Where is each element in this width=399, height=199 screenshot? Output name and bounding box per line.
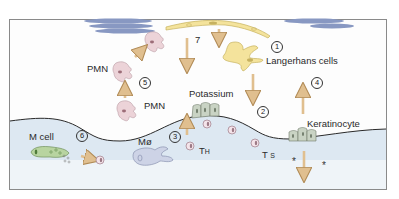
immune-response-diagram: PMN PMN Potassium Langerhans cells Kerat… bbox=[0, 0, 399, 199]
pmn-top-label: PMN bbox=[87, 64, 108, 74]
th-sub: H bbox=[205, 148, 210, 155]
keratinocyte-label: Keratinocyte bbox=[307, 119, 360, 129]
step-1-marker: 1 bbox=[271, 41, 283, 53]
step-5-marker: 5 bbox=[139, 77, 151, 89]
langerhans-label: Langerhans cells bbox=[266, 56, 338, 66]
pmn-mid-label: PMN bbox=[144, 101, 165, 111]
step-3-marker: 3 bbox=[169, 131, 181, 143]
m-cell-label: M cell bbox=[29, 132, 54, 142]
asterisk-left: * bbox=[292, 157, 296, 167]
asterisk-right: * bbox=[322, 161, 326, 171]
step-7-label: 7 bbox=[195, 35, 200, 45]
potassium-cell-cluster-icon bbox=[192, 103, 219, 119]
potassium-label: Potassium bbox=[189, 89, 233, 99]
step-4-marker: 4 bbox=[311, 77, 323, 89]
ts-sub: S bbox=[270, 152, 275, 159]
lower-fade bbox=[10, 160, 386, 189]
th-label: TH bbox=[199, 146, 210, 156]
ts-main: T bbox=[262, 149, 268, 160]
ts-label: T S bbox=[262, 150, 275, 160]
step-6-marker: 6 bbox=[76, 130, 88, 142]
diagram-canvas bbox=[0, 0, 399, 199]
macrophage-label: Mø bbox=[138, 137, 152, 147]
step-2-marker: 2 bbox=[257, 106, 269, 118]
